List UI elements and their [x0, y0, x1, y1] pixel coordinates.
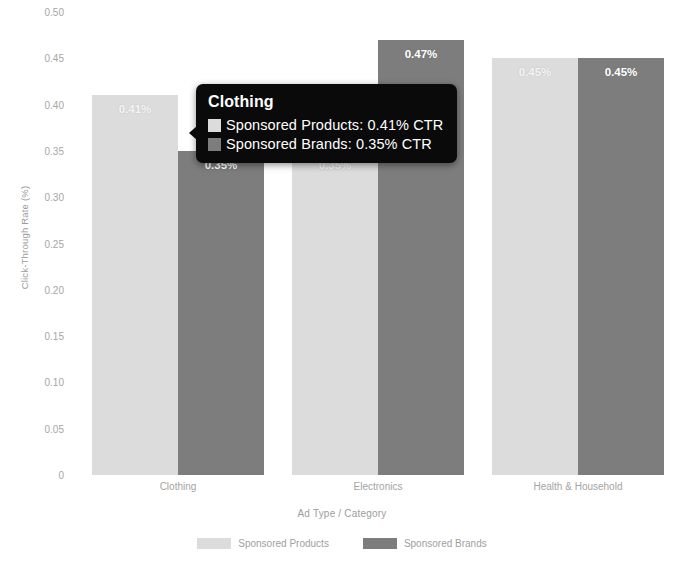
bar[interactable]: 0.41%: [92, 95, 178, 475]
y-axis-ticks: 00.050.100.150.200.250.300.350.400.450.5…: [0, 0, 72, 573]
y-axis-tick-label: 0.25: [0, 238, 64, 249]
y-axis-tick-label: 0.20: [0, 284, 64, 295]
bar-group: 0.45%0.45%: [492, 12, 664, 475]
bar[interactable]: 0.35%: [178, 151, 264, 475]
legend-item[interactable]: Sponsored Products: [197, 538, 329, 549]
x-axis-title: Ad Type / Category: [0, 508, 684, 519]
y-axis-tick-label: 0.10: [0, 377, 64, 388]
bar[interactable]: 0.45%: [492, 58, 578, 475]
tooltip-swatch: [208, 119, 221, 132]
tooltip-row-label: Sponsored Brands: 0.35% CTR: [226, 136, 432, 152]
bar-group: 0.35%0.47%: [292, 12, 464, 475]
tooltip-arrow: [189, 126, 197, 140]
legend-item[interactable]: Sponsored Brands: [363, 538, 487, 549]
x-axis-tick-label: Clothing: [160, 481, 197, 492]
x-axis-tick-label: Health & Household: [534, 481, 623, 492]
plot-area: 0.41%0.35%0.35%0.47%0.45%0.45%: [78, 12, 678, 475]
y-axis-tick-label: 0.35: [0, 145, 64, 156]
chart-legend: Sponsored ProductsSponsored Brands: [0, 538, 684, 549]
y-axis-tick-label: 0.30: [0, 192, 64, 203]
bar-chart: Click-Through Rate (%) 00.050.100.150.20…: [0, 0, 684, 573]
y-axis-tick-label: 0.50: [0, 7, 64, 18]
legend-label: Sponsored Products: [238, 538, 329, 549]
bar-value-label: 0.47%: [378, 48, 464, 60]
x-axis-tick-labels: ClothingElectronicsHealth & Household: [78, 481, 678, 503]
bar-value-label: 0.41%: [92, 103, 178, 115]
y-axis-tick-label: 0.15: [0, 331, 64, 342]
tooltip-row: Sponsored Products: 0.41% CTR: [208, 117, 443, 133]
tooltip-row-label: Sponsored Products: 0.41% CTR: [226, 117, 443, 133]
x-axis-tick-label: Electronics: [354, 481, 403, 492]
tooltip-title: Clothing: [208, 93, 443, 111]
bar-value-label: 0.45%: [492, 66, 578, 78]
bar[interactable]: 0.35%: [292, 151, 378, 475]
legend-swatch: [363, 538, 397, 549]
bar[interactable]: 0.45%: [578, 58, 664, 475]
chart-tooltip: Clothing Sponsored Products: 0.41% CTRSp…: [196, 84, 457, 163]
y-axis-tick-label: 0: [0, 470, 64, 481]
y-axis-tick-label: 0.40: [0, 99, 64, 110]
tooltip-row: Sponsored Brands: 0.35% CTR: [208, 136, 443, 152]
legend-label: Sponsored Brands: [404, 538, 487, 549]
bar-group: 0.41%0.35%: [92, 12, 264, 475]
bar-value-label: 0.45%: [578, 66, 664, 78]
y-axis-tick-label: 0.05: [0, 423, 64, 434]
tooltip-swatch: [208, 138, 221, 151]
y-axis-tick-label: 0.45: [0, 53, 64, 64]
legend-swatch: [197, 538, 231, 549]
